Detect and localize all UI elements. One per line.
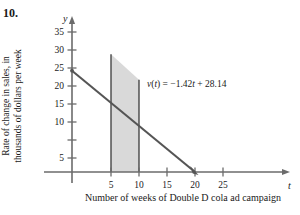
x-tick-label-20: 20 <box>190 180 200 190</box>
equation-annotation: v(t) = −1.42t + 28.14 <box>147 79 227 90</box>
x-tick-label-25: 25 <box>218 180 228 190</box>
y-tick-label-10: 10 <box>55 117 65 127</box>
graph-plot: 35 30 25 20 15 10 5 5 10 15 20 25 y t v(… <box>0 0 300 215</box>
y-tick-label-25: 25 <box>55 63 65 73</box>
y-axis-variable-label: y <box>62 13 68 24</box>
y-tick-label-15: 15 <box>55 99 65 109</box>
y-tick-label-30: 30 <box>55 45 65 55</box>
y-tick-label-35: 35 <box>55 27 65 37</box>
equation-part-rest: ) = −1.42 <box>157 79 193 90</box>
y-axis-caption-line-1: Rate of change in sales, in <box>0 26 12 186</box>
y-axis-caption: Rate of change in sales, in thousands of… <box>0 26 28 186</box>
x-tick-label-10: 10 <box>134 180 144 190</box>
x-axis-variable-label: t <box>288 180 291 191</box>
y-axis-caption-line-2: thousands of dollars per week <box>12 26 24 186</box>
y-axis-arrowhead <box>69 16 75 24</box>
x-axis-caption: Number of weeks of Double D cola ad camp… <box>72 192 294 203</box>
x-tick-label-5: 5 <box>109 180 114 190</box>
y-tick-label-5: 5 <box>59 153 64 163</box>
figure-container: 10. 35 30 25 20 15 10 5 <box>0 0 300 215</box>
y-tick-label-20: 20 <box>55 81 65 91</box>
equation-part-tail: + 28.14 <box>195 79 227 89</box>
x-axis-arrowhead <box>282 169 290 175</box>
x-tick-label-15: 15 <box>162 180 172 190</box>
y-intercept-point <box>70 69 74 73</box>
